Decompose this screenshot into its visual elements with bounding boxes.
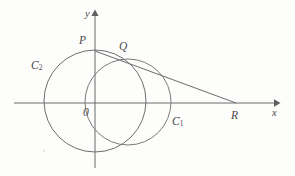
circle-C1 bbox=[85, 59, 171, 145]
y-axis-arrowhead bbox=[91, 10, 98, 17]
y-axis bbox=[91, 10, 98, 169]
circle-label-C1-base: C bbox=[172, 115, 180, 127]
figure-canvas: P Q R 0 x y C2 C1 bbox=[0, 0, 295, 176]
x-axis-label: x bbox=[272, 108, 277, 119]
circle-label-C1: C1 bbox=[172, 116, 183, 128]
y-axis-label: y bbox=[85, 9, 90, 20]
point-label-Q: Q bbox=[119, 41, 127, 53]
scan-artifact-speck bbox=[43, 150, 45, 152]
point-label-R: R bbox=[231, 110, 238, 122]
point-label-P: P bbox=[79, 35, 86, 47]
circle-label-C2: C2 bbox=[31, 60, 42, 72]
circle-label-C2-base: C bbox=[31, 59, 39, 71]
circle-label-C2-subscript: 2 bbox=[39, 63, 43, 72]
x-axis-arrowhead bbox=[274, 99, 281, 106]
origin-label: 0 bbox=[83, 107, 89, 119]
circle-label-C1-subscript: 1 bbox=[180, 119, 184, 128]
line-PR bbox=[95, 51, 236, 103]
x-axis bbox=[14, 99, 281, 106]
